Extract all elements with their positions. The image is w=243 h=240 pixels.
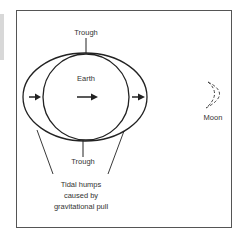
arrow-right-icon bbox=[132, 94, 145, 101]
humps-label-line3: gravitational pull bbox=[36, 202, 126, 211]
arrow-right-icon bbox=[29, 94, 41, 101]
earth-label: Earth bbox=[66, 74, 106, 83]
trough-top-label: Trough bbox=[66, 28, 106, 37]
arrow-right-icon bbox=[77, 94, 98, 101]
humps-label-line1: Tidal humps bbox=[46, 180, 116, 189]
hump-left-pointer bbox=[37, 130, 53, 174]
moon-label: Moon bbox=[198, 113, 228, 122]
moon-crescent-icon bbox=[206, 82, 220, 108]
humps-label-line2: caused by bbox=[46, 191, 116, 200]
trough-bottom-label: Trough bbox=[63, 157, 103, 166]
